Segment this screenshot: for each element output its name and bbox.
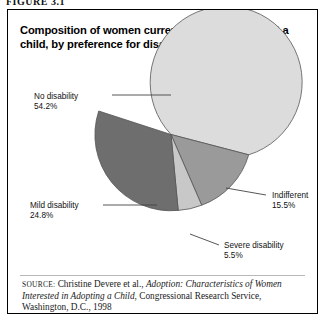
label-no-disability: No disability 54.2% [34,92,78,112]
source-text-1: Christine Devere et al., [55,279,146,289]
label-indifferent: Indifferent 15.5% [272,191,308,211]
figure-page: FIGURE 3.1 Composition of women currentl… [0,0,328,321]
leader-line-severe-disability [190,234,219,245]
source-note: SOURCE: Christine Devere et al., Adoptio… [22,279,303,314]
label-indifferent-value: 15.5% [272,201,308,211]
label-severe-disability: Severe disability 5.5% [224,241,284,261]
source-divider [20,275,305,276]
label-severe-disability-name: Severe disability [224,241,284,250]
pie-chart-svg [8,10,317,268]
pie-slice-no-disability[interactable] [150,10,302,155]
label-indifferent-name: Indifferent [272,191,308,200]
leader-line-indifferent [226,188,266,195]
pie-chart [8,10,317,268]
label-severe-disability-value: 5.5% [224,251,284,261]
label-no-disability-name: No disability [34,92,78,101]
figure-panel: Composition of women currently seeking t… [7,9,318,314]
label-mild-disability: Mild disability 24.8% [30,201,79,221]
label-no-disability-value: 54.2% [34,102,78,112]
source-prefix: SOURCE: [22,280,55,289]
figure-caption: FIGURE 3.1 [6,0,65,6]
label-mild-disability-name: Mild disability [30,201,79,210]
label-mild-disability-value: 24.8% [30,211,79,221]
